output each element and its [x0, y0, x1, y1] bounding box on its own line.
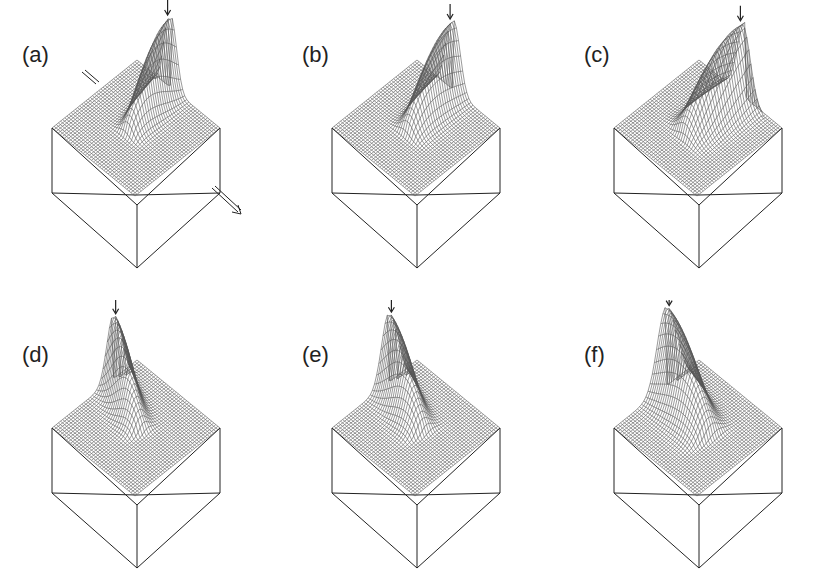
- surface-plot: [280, 0, 536, 285]
- peak-arrow-icon: [388, 300, 394, 312]
- wireframe-mesh: [614, 23, 782, 197]
- surface-plot: [562, 0, 818, 285]
- wireframe-mesh: [332, 315, 500, 496]
- wireframe-mesh: [614, 308, 782, 496]
- panel-d: (d): [0, 300, 256, 585]
- peak-arrow-icon: [737, 6, 743, 21]
- wireframe-mesh: [332, 21, 500, 196]
- peak-arrow-icon: [666, 300, 672, 306]
- panel-e: (e): [280, 300, 536, 585]
- peak-arrow-icon: [113, 300, 119, 314]
- surface-plot: [280, 300, 536, 585]
- surface-plot: [562, 300, 818, 585]
- surface-plot: [0, 300, 256, 585]
- panel-b: (b): [280, 0, 536, 285]
- panel-a: (a): [0, 0, 256, 285]
- wireframe-mesh: [52, 317, 220, 497]
- panel-c: (c): [562, 0, 818, 285]
- surface-plot: [0, 0, 256, 285]
- panel-f: (f): [562, 300, 818, 585]
- peak-arrow-icon: [447, 4, 453, 19]
- peak-arrow-icon: [165, 0, 171, 15]
- wireframe-mesh: [52, 19, 220, 197]
